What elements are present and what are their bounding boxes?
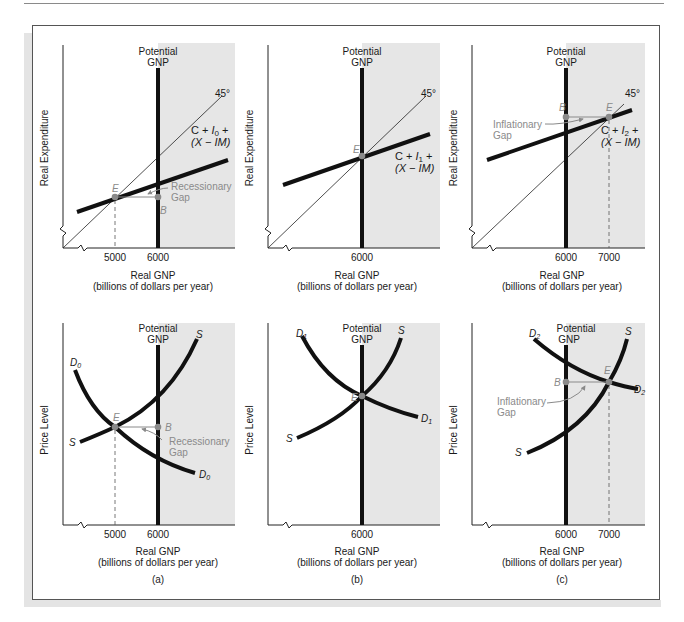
point-B [155,424,162,431]
point-E [606,114,613,121]
label-S-top: S [196,329,203,340]
panel-b-bottom: Potential GNP S S D1 D1 E Price Level 60… [244,323,440,585]
label-D2-top: D2 [529,328,540,340]
potential-gnp-label-1: Potential [557,323,596,334]
potential-gnp-label-2: GNP [147,57,169,68]
point-E [112,424,119,431]
label-E: E [113,412,120,423]
x-axis-units: (billions of dollars per year) [98,557,218,568]
ae-label-b-2: (X − IM) [395,162,435,174]
figure-canvas: Potential GNP 45° C + I0 + (X − IM) E B … [0,0,684,622]
potential-gnp-label-1: Potential [547,46,586,57]
y-axis-label: Price Level [244,405,255,454]
potential-gnp-label-2: GNP [555,57,577,68]
panel-b-top: Potential GNP 45° C + I1 + (X − IM) E Re… [244,43,440,292]
recessionary-gap-label-2: Gap [169,447,188,458]
recessionary-gap-label-1: Recessionary [171,181,232,192]
inflationary-gap-label-2: Gap [493,130,512,141]
panel-a-bottom: Potential GNP S S D0 D0 E B Recessionary… [39,323,235,585]
label-E: E [606,102,613,113]
tick-6000: 6000 [351,529,374,540]
panel-a-top: Potential GNP 45° C + I0 + (X − IM) E B … [39,43,235,292]
potential-gnp-label-2: GNP [351,334,373,345]
label-S-bottom: S [286,433,293,444]
x-axis-label: Real GNP [539,270,584,281]
label-S-bottom: S [515,447,522,458]
tick-5000: 5000 [104,252,127,263]
panel-c-bottom: Potential GNP S S D2 D2 B E Inflationary… [448,323,645,585]
deg45-label: 45° [421,88,436,99]
label-S-top: S [625,326,632,337]
recessionary-gap-label-1: Recessionary [169,436,230,447]
label-E: E [604,365,611,376]
recessionary-gap-label-2: Gap [171,192,190,203]
label-E: E [112,183,119,194]
point-B [563,114,570,121]
label-E: E [351,392,358,403]
tick-6000: 6000 [147,252,170,263]
tick-6000: 6000 [351,252,374,263]
ae-label-a-2: (X − IM) [191,136,231,148]
panel-caption: (b) [351,574,363,585]
y-axis-label: Real Expenditure [448,109,459,186]
panel-caption: (c) [556,574,568,585]
tick-7000: 7000 [598,252,621,263]
panel-caption: (a) [152,574,164,585]
point-E [359,153,366,160]
potential-gnp-label-2: GNP [558,334,580,345]
label-B: B [160,205,167,216]
potential-gnp-label-1: Potential [343,323,382,334]
point-B [155,194,162,201]
label-B: B [165,422,172,433]
tick-6000: 6000 [555,252,578,263]
point-E [606,379,613,386]
panel-c-top: Potential GNP 45° C + I2 + (X − IM) B E … [448,43,645,292]
point-B [563,379,570,386]
label-B: B [554,377,561,388]
potential-gnp-label-2: GNP [147,334,169,345]
x-axis-units: (billions of dollars per year) [297,557,417,568]
x-axis-label: Real GNP [135,546,180,557]
label-E: E [353,144,360,155]
x-axis-units: (billions of dollars per year) [502,557,622,568]
x-axis-label: Real GNP [539,546,584,557]
label-D1-top: D1 [296,328,307,340]
tick-5000: 5000 [104,529,127,540]
y-axis-label: Price Level [39,405,50,454]
x-axis-label: Real GNP [334,546,379,557]
potential-gnp-label-1: Potential [343,46,382,57]
y-axis-label: Price Level [448,405,459,454]
label-S-bottom: S [69,437,76,448]
point-E [112,194,119,201]
tick-7000: 7000 [598,529,621,540]
tick-6000: 6000 [147,529,170,540]
deg45-label: 45° [625,88,640,99]
label-D0-top: D0 [70,357,81,369]
x-axis-units: (billions of dollars per year) [502,281,622,292]
inflationary-gap-label-1: Inflationary [497,396,546,407]
y-axis-label: Real Expenditure [244,109,255,186]
deg45-label: 45° [215,88,230,99]
x-axis-units: (billions of dollars per year) [93,281,213,292]
y-axis-label: Real Expenditure [39,109,50,186]
ae-label-c-2: (X − IM) [601,136,641,148]
x-axis-label: Real GNP [334,270,379,281]
x-axis-units: (billions of dollars per year) [297,281,417,292]
tick-6000: 6000 [555,529,578,540]
potential-gnp-label-1: Potential [139,46,178,57]
potential-gnp-label-1: Potential [139,323,178,334]
inflationary-gap-label-2: Gap [497,407,516,418]
potential-gnp-label-2: GNP [351,57,373,68]
label-S-top: S [398,325,405,336]
point-E [359,393,366,400]
inflationary-gap-label-1: Inflationary [493,119,542,130]
x-axis-label: Real GNP [130,270,175,281]
label-B: B [559,102,566,113]
